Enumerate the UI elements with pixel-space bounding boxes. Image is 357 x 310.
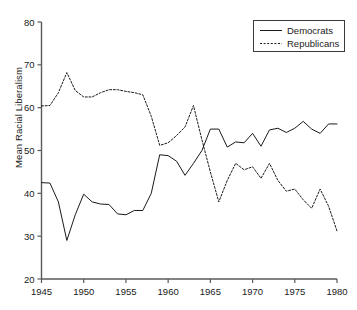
- legend-item-republicans: Republicans: [260, 37, 339, 50]
- legend-item-democrats: Democrats: [260, 24, 333, 37]
- dotted-line-key: [260, 39, 282, 48]
- racial-liberalism-line-chart: 2030405060708019451950195519601965197019…: [0, 0, 357, 310]
- legend-label-democrats: Democrats: [287, 25, 333, 36]
- y-axis-title: Mean Racial Liberalism: [13, 53, 24, 183]
- y-tick-label: 70: [24, 59, 35, 70]
- x-tick-label: 1960: [158, 286, 179, 297]
- y-tick-label: 80: [24, 17, 35, 28]
- x-tick-label: 1955: [115, 286, 136, 297]
- x-tick-label: 1965: [200, 286, 221, 297]
- x-tick-label: 1980: [326, 286, 347, 297]
- x-tick-label: 1950: [73, 286, 94, 297]
- series-line-republicans: [42, 73, 338, 231]
- y-tick-label: 50: [24, 145, 35, 156]
- series-line-democrats: [42, 121, 338, 240]
- x-tick-label: 1970: [242, 286, 263, 297]
- y-tick-label: 30: [24, 231, 35, 242]
- y-tick-label: 60: [24, 102, 35, 113]
- x-tick-label: 1975: [284, 286, 305, 297]
- y-tick-label: 40: [24, 188, 35, 199]
- x-tick-label: 1945: [31, 286, 52, 297]
- y-tick-label: 20: [24, 274, 35, 285]
- legend-label-republicans: Republicans: [287, 38, 339, 49]
- solid-line-key: [260, 26, 282, 35]
- chart-legend: Democrats Republicans: [253, 20, 345, 52]
